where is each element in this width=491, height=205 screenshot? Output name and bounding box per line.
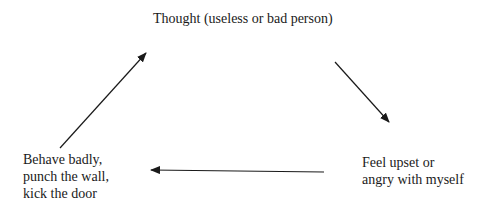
- arrow-behave-to-thought-icon: [60, 53, 146, 148]
- arrow-thought-to-feel-icon: [335, 62, 389, 122]
- arrow-feel-to-behave-icon: [151, 170, 324, 172]
- cycle-arrows: [0, 0, 491, 205]
